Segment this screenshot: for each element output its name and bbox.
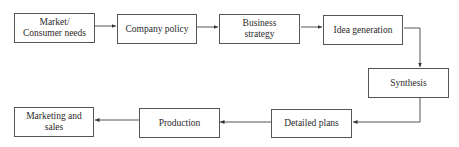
node-idea-generation: Idea generation <box>323 15 403 45</box>
node-label-line: Business <box>243 18 277 29</box>
node-company-policy: Company policy <box>117 14 197 44</box>
node-label: Production <box>159 118 201 129</box>
node-synthesis: Synthesis <box>368 68 449 98</box>
node-label-line: sales <box>26 122 82 133</box>
node-detailed-plans: Detailed plans <box>271 109 352 138</box>
arrow-synthesis-to-plans <box>353 98 420 122</box>
node-label-line: Consumer needs <box>23 28 86 39</box>
node-label-line: Marketing and <box>26 111 82 122</box>
node-label-line: Market/ <box>23 17 86 28</box>
node-label: Company policy <box>125 24 188 35</box>
node-label: Synthesis <box>390 78 426 89</box>
node-market-consumer-needs: Market/ Consumer needs <box>14 13 95 43</box>
arrow-idea-to-synthesis <box>404 28 420 67</box>
node-label: Idea generation <box>334 25 393 36</box>
node-label-line: strategy <box>243 29 277 40</box>
node-production: Production <box>139 108 220 138</box>
node-marketing-and-sales: Marketing and sales <box>14 107 94 137</box>
node-label: Detailed plans <box>284 118 339 129</box>
node-business-strategy: Business strategy <box>219 14 300 44</box>
